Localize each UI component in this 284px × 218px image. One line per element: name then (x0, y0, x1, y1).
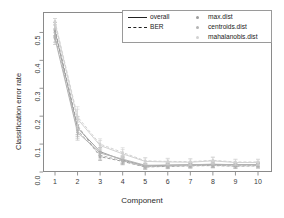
y-tick-label: 0.0 (34, 171, 41, 191)
legend-column-measures: overall BER (126, 12, 188, 32)
legend-item-centroids-dist: centroids.dist (190, 22, 274, 32)
y-tick-label: 0.1 (34, 143, 41, 163)
x-tick-label: 1 (47, 178, 63, 185)
y-tick-label: 0.4 (34, 59, 41, 79)
legend-label-mahalanobis-dist: mahalanobis.dist (208, 32, 257, 42)
x-tick-label: 4 (115, 178, 131, 185)
y-tick-label: 0.3 (34, 87, 41, 107)
x-tick-label: 6 (160, 178, 176, 185)
legend-label-centroids-dist: centroids.dist (208, 22, 247, 32)
y-tick-label: 0.5 (34, 31, 41, 51)
legend-item-overall: overall (126, 12, 188, 22)
legend-label-overall: overall (150, 12, 169, 22)
chart-root: 0.00.10.20.30.40.5 12345678910 Classific… (0, 0, 284, 218)
legend-item-ber: BER (126, 22, 188, 32)
x-tick-label: 2 (70, 178, 86, 185)
y-tick-label: 0.2 (34, 115, 41, 135)
legend-label-ber: BER (150, 22, 164, 32)
legend-label-max-dist: max.dist (208, 12, 233, 22)
point-marker-icon (196, 16, 199, 19)
point-marker-icon (196, 36, 199, 39)
x-tick-label: 5 (137, 178, 153, 185)
legend-item-max-dist: max.dist (190, 12, 274, 22)
point-marker-icon (196, 26, 199, 29)
x-tick-label: 7 (182, 178, 198, 185)
y-axis-title: Classification error rate (14, 73, 23, 150)
solid-line-icon (128, 17, 147, 18)
x-tick-label: 8 (205, 178, 221, 185)
x-axis-title: Component (0, 196, 284, 205)
legend-item-mahalanobis-dist: mahalanobis.dist (190, 32, 274, 42)
dashed-line-icon (128, 27, 147, 28)
x-tick-label: 10 (250, 178, 266, 185)
x-tick-label: 3 (92, 178, 108, 185)
x-tick-label: 9 (227, 178, 243, 185)
legend-column-distances: max.dist centroids.dist mahalanobis.dist (190, 12, 274, 42)
